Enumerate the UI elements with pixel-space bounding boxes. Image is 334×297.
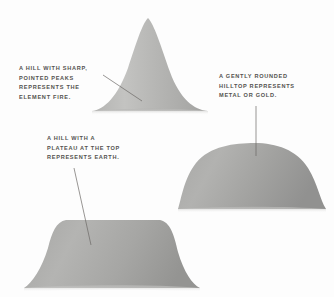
metal-caption-line-1: A GENTLY ROUNDED: [219, 72, 295, 82]
earth-hill-shape: [24, 220, 200, 292]
fire-hill-shape: [92, 18, 208, 115]
metal-caption-line-3: METAL OR GOLD.: [219, 91, 295, 101]
metal-caption-line-2: HILLTOP REPRESENTS: [219, 82, 295, 92]
metal-hill-caption: A GENTLY ROUNDED HILLTOP REPRESENTS META…: [219, 72, 295, 101]
fire-caption-line-4: ELEMENT FIRE.: [19, 93, 87, 103]
metal-hill-shape: [178, 143, 326, 213]
earth-caption-line-3: REPRESENTS EARTH.: [47, 153, 120, 163]
fire-hill-caption: A HILL WITH SHARP, POINTED PEAKS REPRESE…: [19, 64, 87, 102]
hill-elements-diagram: A HILL WITH SHARP, POINTED PEAKS REPRESE…: [0, 0, 334, 297]
earth-caption-line-1: A HILL WITH A: [47, 134, 120, 144]
fire-caption-line-3: REPRESENTS THE: [19, 83, 87, 93]
earth-hill-caption: A HILL WITH A PLATEAU AT THE TOP REPRESE…: [47, 134, 120, 163]
fire-caption-line-2: POINTED PEAKS: [19, 74, 87, 84]
fire-caption-line-1: A HILL WITH SHARP,: [19, 64, 87, 74]
earth-caption-line-2: PLATEAU AT THE TOP: [47, 144, 120, 154]
